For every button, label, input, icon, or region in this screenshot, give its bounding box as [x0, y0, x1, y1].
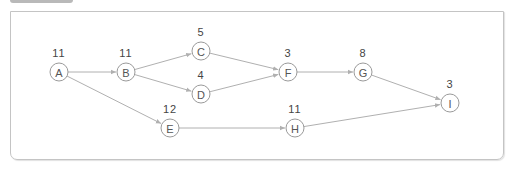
duration-label: 11 [119, 47, 132, 59]
node-label: H [291, 123, 299, 135]
edge-d-f [210, 74, 279, 91]
node-a: A11 [50, 47, 68, 81]
duration-label: 5 [197, 26, 204, 38]
node-label: I [448, 98, 451, 110]
node-label: A [55, 67, 63, 79]
node-label: D [197, 89, 205, 101]
node-label: F [285, 67, 292, 79]
node-d: D4 [192, 69, 210, 103]
edge-c-f [210, 53, 279, 70]
duration-label: 3 [446, 78, 453, 90]
edge-b-c [135, 54, 192, 70]
node-c: C5 [192, 26, 210, 60]
node-label: B [122, 67, 129, 79]
edge-b-d [135, 75, 192, 92]
node-b: B11 [117, 47, 135, 81]
node-label: E [166, 123, 173, 135]
node-f: F3 [279, 47, 297, 81]
activity-network-diagram: A11B11C5D4E12F3G8H11I3 [0, 0, 514, 169]
duration-label: 3 [284, 47, 291, 59]
duration-label: 11 [288, 103, 301, 115]
node-label: C [197, 46, 205, 58]
edge-h-i [304, 105, 440, 127]
nodes-layer: A11B11C5D4E12F3G8H11I3 [50, 26, 459, 137]
node-i: I3 [441, 78, 459, 112]
duration-label: 8 [359, 47, 366, 59]
edge-a-e [67, 76, 161, 123]
duration-label: 12 [163, 103, 177, 115]
duration-label: 4 [197, 69, 204, 81]
node-h: H11 [286, 103, 304, 137]
node-g: G8 [354, 47, 372, 81]
edge-g-i [371, 75, 440, 100]
node-e: E12 [161, 103, 179, 137]
node-label: G [359, 67, 368, 79]
duration-label: 11 [52, 47, 65, 59]
